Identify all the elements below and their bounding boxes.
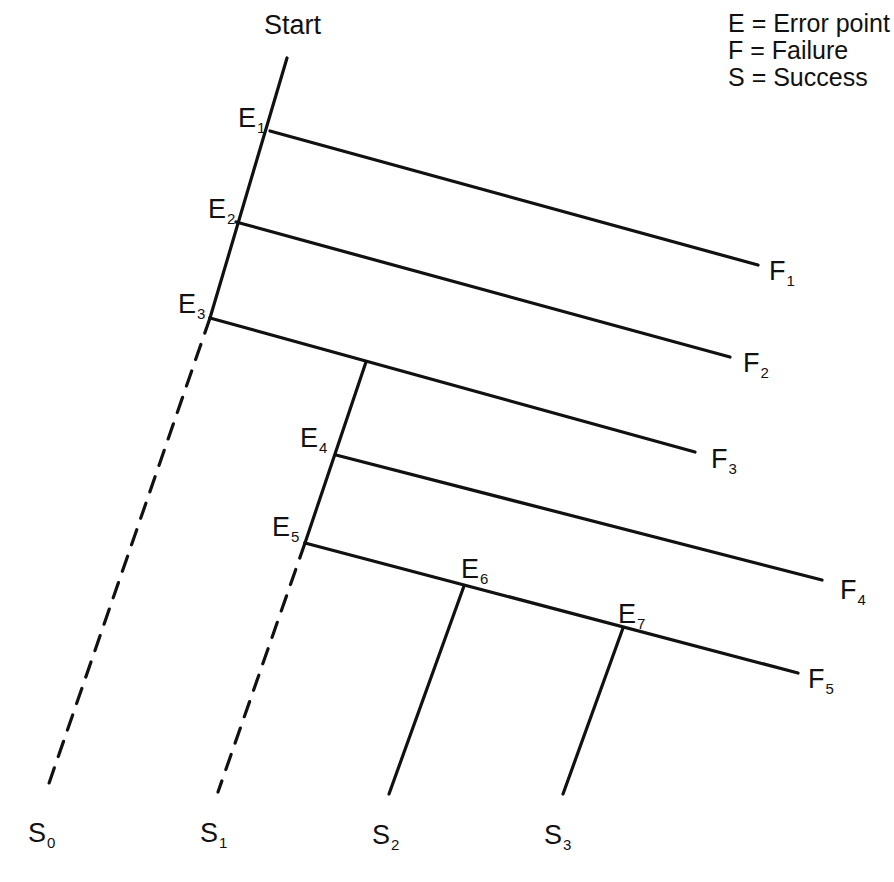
legend-success: S = Success <box>728 64 890 91</box>
legend: E = Error point F = Failure S = Success <box>728 10 890 91</box>
label-e6: E6 <box>461 556 488 586</box>
path-e2-to-f2 <box>236 222 730 357</box>
label-f2: F2 <box>743 350 769 380</box>
label-e3: E3 <box>178 291 205 321</box>
label-f4: F4 <box>840 577 866 607</box>
label-s0: S0 <box>28 820 55 850</box>
path-e3-to-f3 <box>210 318 695 452</box>
path-e6-to-s2 <box>389 586 464 794</box>
path-e3-to-s0 <box>46 318 210 792</box>
path-e5-to-s1 <box>218 543 305 792</box>
label-s1: S1 <box>200 820 227 850</box>
label-e5: E5 <box>272 514 299 544</box>
legend-failure: F = Failure <box>728 37 890 64</box>
legend-error-point: E = Error point <box>728 10 890 37</box>
label-f3: F3 <box>711 446 737 476</box>
label-s2: S2 <box>372 822 399 852</box>
label-s3: S3 <box>544 822 571 852</box>
trunk-start-to-e3 <box>210 58 287 318</box>
label-e1: E1 <box>238 105 265 135</box>
label-e7: E7 <box>618 601 645 631</box>
path-e7-to-s3 <box>563 628 623 794</box>
path-e1-to-f1 <box>270 131 758 265</box>
label-e4: E4 <box>300 425 327 455</box>
label-f1: F1 <box>769 258 795 288</box>
diagram-lines <box>0 0 894 882</box>
label-e2: E2 <box>208 196 235 226</box>
start-label: Start <box>264 10 321 41</box>
label-f5: F5 <box>808 666 834 696</box>
path-e5-to-f5 <box>305 543 798 673</box>
path-e4-to-f4 <box>336 455 822 580</box>
